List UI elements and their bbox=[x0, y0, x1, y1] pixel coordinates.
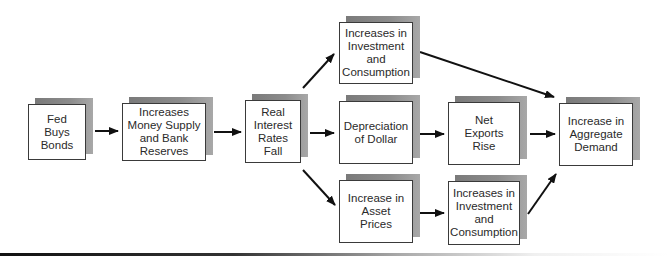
node-box: Depreciation of Dollar bbox=[339, 101, 413, 164]
node-label: Increases in Investment and Consumption bbox=[450, 187, 518, 239]
bottom-rule bbox=[0, 253, 668, 256]
arrow-invest-top-to-aggregate bbox=[420, 52, 554, 97]
arrow-rates-to-invest-top bbox=[303, 54, 334, 88]
node-box: Increases in Investment and Consumption bbox=[339, 22, 413, 84]
node-box: Increases in Investment and Consumption bbox=[448, 181, 520, 245]
node-label: Net Exports Rise bbox=[465, 114, 504, 153]
node-label: Increases Money Supply and Bank Reserves bbox=[128, 106, 201, 158]
node-box: Increase in Aggregate Demand bbox=[559, 103, 633, 166]
node-label: Depreciation of Dollar bbox=[344, 120, 409, 146]
arrow-rates-to-asset bbox=[303, 170, 335, 205]
node-label: Increases in Investment and Consumption bbox=[342, 27, 410, 79]
node-box: Net Exports Rise bbox=[448, 102, 520, 165]
node-box: Fed Buys Bonds bbox=[28, 104, 86, 160]
node-box: Increases Money Supply and Bank Reserves bbox=[122, 103, 206, 161]
arrow-invest-bottom-to-aggregate bbox=[528, 174, 556, 214]
node-box: Real Interest Rates Fall bbox=[245, 100, 301, 163]
node-label: Real Interest Rates Fall bbox=[254, 106, 292, 158]
node-label: Increase in Aggregate Demand bbox=[568, 115, 624, 154]
node-label: Fed Buys Bonds bbox=[41, 113, 74, 152]
node-label: Increase in Asset Prices bbox=[348, 192, 404, 231]
node-box: Increase in Asset Prices bbox=[339, 180, 413, 243]
